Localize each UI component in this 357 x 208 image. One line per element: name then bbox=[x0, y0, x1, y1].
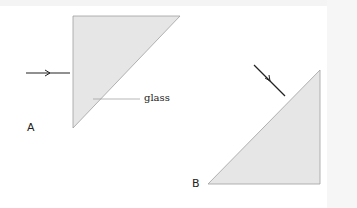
prism-diagram bbox=[0, 0, 357, 208]
prism-b bbox=[208, 70, 320, 184]
prism-a bbox=[73, 16, 180, 128]
glass-label: glass bbox=[144, 92, 170, 103]
panel-label-a: A bbox=[27, 121, 35, 134]
panel-label-b: B bbox=[192, 177, 200, 190]
